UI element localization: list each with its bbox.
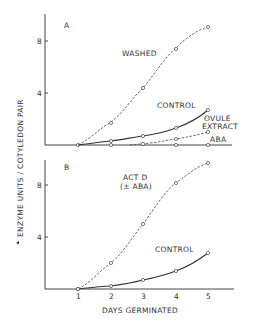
- panel-a-letter: A: [64, 21, 70, 30]
- panel-b-ytick-label-4: 4: [37, 233, 42, 242]
- series-control-a-line: [78, 110, 208, 145]
- series-control-b-markers: [76, 251, 209, 290]
- xtick-3: 3: [141, 292, 146, 301]
- series-control-a-markers: [109, 108, 209, 142]
- xtick-2: 2: [109, 292, 114, 301]
- label-aba: ABA: [210, 135, 227, 144]
- label-control-b: CONTROL: [155, 245, 194, 254]
- stray-mark: [16, 241, 19, 244]
- xtick-5: 5: [206, 292, 211, 301]
- xtick-1: 1: [76, 292, 81, 301]
- series-control-b-line: [78, 253, 208, 289]
- panel-a-ytick-label-4: 4: [37, 89, 42, 98]
- panel-b-ytick-label-8: 8: [37, 181, 42, 190]
- xtick-4: 4: [174, 292, 179, 301]
- x-axis-label: DAYS GERMINATED: [102, 306, 178, 315]
- label-actd-aba: (± ABA): [120, 182, 152, 191]
- y-axis-label: ENZYME UNITS / COTYLEDON PAIR: [16, 99, 25, 237]
- panel-b-letter: B: [64, 163, 69, 172]
- series-washed-line: [78, 27, 208, 145]
- label-control-a: CONTROL: [157, 101, 196, 110]
- figure: 8 4 A WASHED CONTROL OVULE EXTRACT ABA: [0, 0, 254, 329]
- label-extract: EXTRACT: [202, 122, 238, 131]
- panel-b: 8 4 B ACT D (± ABA) CONTROL 1 2 3 4 5 DA…: [16, 160, 234, 315]
- panel-a-ytick-label-8: 8: [37, 37, 42, 46]
- series-washed-markers: [76, 25, 209, 146]
- label-actd: ACT D: [123, 173, 147, 182]
- label-washed: WASHED: [122, 49, 157, 58]
- panel-a: 8 4 A WASHED CONTROL OVULE EXTRACT ABA: [37, 14, 238, 147]
